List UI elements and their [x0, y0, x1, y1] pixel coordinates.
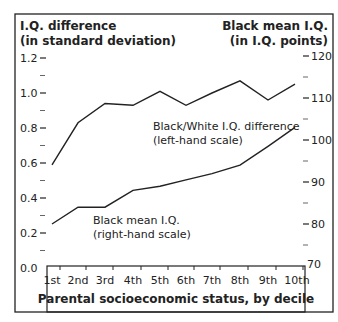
- right-tick-label: 80: [311, 218, 325, 231]
- right-axis-title-1: Black mean I.Q.: [222, 19, 328, 33]
- right-tick-label: 90: [311, 176, 325, 189]
- series-label-diff-1: Black/White I.Q. difference: [153, 120, 300, 133]
- x-tick-label: 2nd: [68, 274, 89, 287]
- series-label-mean-1: Black mean I.Q.: [93, 214, 180, 227]
- left-axis: 0.00.20.40.60.81.01.2: [20, 52, 46, 275]
- x-tick-label: 8th: [231, 274, 249, 287]
- right-tick-label: 100: [311, 134, 332, 147]
- x-tick-label: 4th: [124, 274, 142, 287]
- right-tick-label: 70: [307, 258, 321, 271]
- axis-titles: I.Q. difference (in standard deviation) …: [20, 19, 328, 48]
- chart: I.Q. difference (in standard deviation) …: [0, 0, 338, 322]
- x-tick-label: 9th: [259, 274, 277, 287]
- x-tick-label: 5th: [151, 274, 169, 287]
- left-tick-label: 0.8: [20, 122, 38, 135]
- x-tick-label: 3rd: [96, 274, 114, 287]
- x-tick-label: 10th: [284, 274, 309, 287]
- left-tick-label: 0.0: [20, 262, 38, 275]
- x-axis-label: Parental socioeconomic status, by decile: [38, 292, 314, 306]
- left-axis-title-2: (in standard deviation): [20, 34, 176, 48]
- left-tick-label: 1.2: [20, 52, 38, 65]
- x-axis: 1st2nd3rd4th5th6th7th8th9th10th: [43, 266, 309, 287]
- chart-frame: [15, 14, 333, 312]
- x-tick-label: 6th: [177, 274, 195, 287]
- x-tick-label: 1st: [43, 274, 61, 287]
- right-axis-title-2: (in I.Q. points): [230, 34, 328, 48]
- left-tick-label: 0.2: [20, 227, 38, 240]
- series-label-diff-2: (left-hand scale): [153, 134, 243, 147]
- left-tick-label: 0.4: [20, 192, 38, 205]
- right-tick-label: 120: [311, 50, 332, 63]
- x-tick-label: 7th: [203, 274, 221, 287]
- left-tick-label: 0.6: [20, 157, 38, 170]
- left-tick-label: 1.0: [20, 87, 38, 100]
- right-tick-label: 110: [311, 92, 332, 105]
- series-label-mean-2: (right-hand scale): [93, 228, 191, 241]
- left-axis-title-1: I.Q. difference: [20, 19, 116, 33]
- right-axis: 708090100110120: [303, 50, 332, 271]
